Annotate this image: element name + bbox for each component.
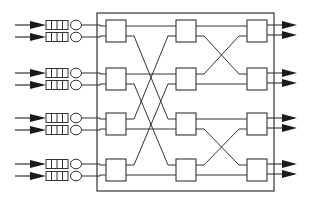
arrow-right-icon [30, 69, 46, 77]
switch-element-right-4 [247, 159, 267, 181]
switch-elements [106, 20, 267, 181]
input-link [82, 84, 106, 85]
input-link [82, 175, 106, 176]
switch-element-middle-1 [176, 20, 196, 42]
arrow-right-icon [282, 31, 297, 39]
stage2-stage3-link [196, 36, 247, 74]
arrow-right-icon [30, 21, 46, 29]
input-link [82, 118, 106, 119]
scheduler-circle [71, 171, 82, 181]
input-port [15, 125, 106, 135]
input-port [15, 32, 106, 42]
input-port [15, 80, 106, 90]
input-link [82, 25, 106, 26]
scheduler-circle [71, 80, 82, 90]
arrow-right-icon [282, 69, 297, 77]
switch-element-left-4 [106, 159, 126, 181]
scheduler-circle [71, 20, 82, 30]
output-ports [267, 21, 297, 178]
arrow-right-icon [282, 21, 297, 29]
arrow-right-icon [30, 172, 46, 180]
switch-element-right-2 [247, 68, 267, 90]
switch-element-right-3 [247, 113, 267, 135]
scheduler-circle [71, 32, 82, 42]
switch-element-right-1 [247, 20, 267, 42]
arrow-right-icon [30, 114, 46, 122]
arrow-right-icon [30, 81, 46, 89]
input-port [15, 68, 106, 78]
stage1-stage2-link [126, 84, 176, 165]
scheduler-circle [71, 68, 82, 78]
scheduler-circle [71, 159, 82, 169]
input-link [82, 36, 106, 37]
arrow-right-icon [30, 33, 46, 41]
scheduler-circle [71, 113, 82, 123]
input-port [15, 159, 106, 169]
input-link [82, 129, 106, 130]
switch-element-left-2 [106, 68, 126, 90]
arrow-right-icon [282, 114, 297, 122]
stage1-stage2-link [126, 36, 176, 119]
stage2-stage3-link [196, 129, 247, 165]
input-port [15, 20, 106, 30]
switch-element-middle-3 [176, 113, 196, 135]
input-ports [15, 20, 106, 181]
switch-element-middle-2 [176, 68, 196, 90]
arrow-right-icon [282, 124, 297, 132]
input-port [15, 171, 106, 181]
switch-network-diagram [0, 0, 312, 200]
input-port [15, 113, 106, 123]
arrow-right-icon [30, 160, 46, 168]
switch-element-left-1 [106, 20, 126, 42]
arrow-right-icon [282, 79, 297, 87]
input-link [82, 164, 106, 165]
arrow-right-icon [282, 160, 297, 168]
switch-element-middle-4 [176, 159, 196, 181]
scheduler-circle [71, 125, 82, 135]
input-link [82, 73, 106, 74]
switch-element-left-3 [106, 113, 126, 135]
interconnect-links [126, 26, 247, 175]
arrow-right-icon [30, 126, 46, 134]
arrow-right-icon [282, 170, 297, 178]
